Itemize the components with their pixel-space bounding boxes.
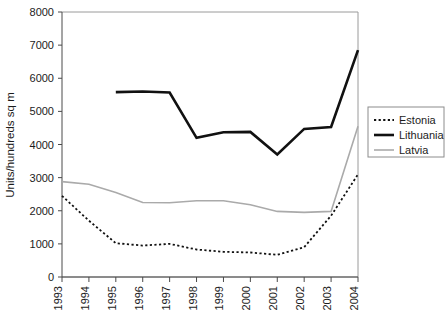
y-tick-label: 3000	[30, 172, 54, 184]
chart-canvas: 010002000300040005000600070008000 199319…	[0, 0, 447, 329]
y-tick-label: 7000	[30, 39, 54, 51]
legend-label-lithuania: Lithuania	[399, 129, 445, 141]
series-line-lithuania	[116, 50, 358, 154]
y-tick-label: 8000	[30, 6, 54, 18]
y-tick-label: 0	[48, 271, 54, 283]
axes	[62, 12, 358, 277]
legend-label-estonia: Estonia	[399, 114, 437, 126]
y-tick-label: 5000	[30, 105, 54, 117]
x-tick-label: 2000	[240, 286, 252, 310]
x-axis-ticks: 1993199419951996199719981999200020012002…	[52, 277, 360, 310]
x-tick-label: 1999	[213, 286, 225, 310]
x-tick-label: 2003	[321, 286, 333, 310]
y-tick-label: 6000	[30, 72, 54, 84]
plot-frame	[62, 12, 358, 277]
y-tick-label: 1000	[30, 238, 54, 250]
y-axis-ticks: 010002000300040005000600070008000	[30, 6, 62, 283]
plot-border	[62, 12, 358, 277]
series-lines	[62, 50, 358, 255]
line-chart: 010002000300040005000600070008000 199319…	[0, 0, 447, 329]
y-tick-label: 4000	[30, 139, 54, 151]
x-tick-label: 2004	[348, 286, 360, 310]
x-tick-label: 2002	[294, 286, 306, 310]
x-tick-label: 1994	[79, 286, 91, 310]
y-axis-title: Units/hundreds sq m	[4, 92, 16, 197]
x-tick-label: 1993	[52, 286, 64, 310]
x-tick-label: 1998	[187, 286, 199, 310]
chart-legend: EstoniaLithuaniaLatvia	[368, 107, 445, 157]
x-tick-label: 1997	[160, 286, 172, 310]
x-tick-label: 2001	[267, 286, 279, 310]
legend-label-latvia: Latvia	[399, 144, 429, 156]
x-tick-label: 1995	[106, 286, 118, 310]
series-line-latvia	[62, 126, 358, 212]
series-line-estonia	[62, 174, 358, 255]
x-tick-label: 1996	[133, 286, 145, 310]
y-tick-label: 2000	[30, 205, 54, 217]
